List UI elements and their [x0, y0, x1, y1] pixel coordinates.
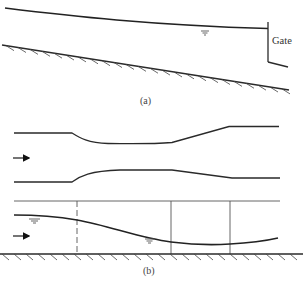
caption-a: (a)	[140, 95, 151, 107]
free-surface-icon	[201, 31, 209, 35]
free-surface-icon	[29, 219, 40, 223]
figure: Gate (a) (b)	[0, 0, 303, 287]
downstream-water-line	[268, 62, 288, 67]
bed-hatching-b	[2, 254, 297, 260]
water-surface-profile-b	[14, 215, 278, 245]
water-surface-profile-a	[5, 8, 268, 29]
gate-label: Gate	[272, 35, 292, 46]
panel-a: Gate (a)	[2, 8, 292, 107]
panel-b-profile: (b)	[0, 201, 303, 277]
panel-b-plan	[13, 127, 280, 183]
lower-wall	[14, 170, 280, 182]
free-surface-icon	[145, 239, 154, 243]
caption-b: (b)	[143, 265, 155, 277]
upper-wall	[14, 127, 279, 144]
sloping-channel-bed	[2, 45, 289, 90]
